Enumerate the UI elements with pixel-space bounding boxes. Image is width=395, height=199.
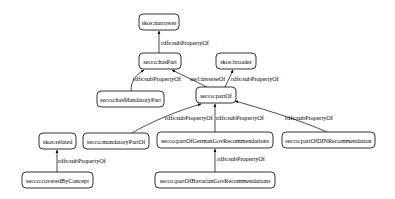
edge-label: rdfs:subPropertyOf — [133, 75, 182, 82]
node-secco-hasPart: secco:hasPart — [139, 53, 181, 69]
node-secco-partOf: secco:partOf — [196, 87, 236, 103]
node-secco-hasMandatoryPart: secco:hasMandatoryPart — [97, 91, 164, 107]
edge-label: owl:inverseOf — [190, 75, 226, 82]
node-label: secco:partOf — [200, 92, 233, 99]
node-secco-partOfDINRecommendation: secco:partOfDINRecommendation — [282, 132, 375, 148]
node-label: secco:partOfDINRecommendation — [285, 137, 371, 144]
node-label: secco:hasMandatoryPart — [100, 96, 161, 103]
node-secco-mandatoryPartOf: secco:mandatoryPartOf — [83, 133, 149, 149]
edge-label: rdfs:subPropertyOf — [217, 155, 266, 162]
node-skos-related: skos:related — [39, 133, 76, 149]
node-label: skos:narrower — [141, 19, 176, 26]
node-label: secco:partOfBavarianGovRecommendations — [160, 177, 271, 184]
node-label: skos:broader — [220, 58, 252, 65]
node-secco-coveredByConcept: secco:coveredByConcept — [22, 172, 93, 188]
node-label: secco:partOfGermanGovRecommendations — [161, 137, 270, 144]
edge-label: rdfs:subPropertyOf — [165, 114, 214, 121]
node-skos-narrower: skos:narrower — [139, 14, 179, 30]
property-graph: rdfs:subPropertyOf rdfs:subPropertyOf ow… — [0, 0, 395, 199]
node-secco-partOfGermanGovRecommendations: secco:partOfGermanGovRecommendations — [157, 132, 273, 148]
node-skos-broader: skos:broader — [216, 53, 256, 69]
edge-label: rdfs:subPropertyOf — [285, 114, 334, 121]
node-label: secco:hasPart — [143, 58, 177, 65]
edge-label: rdfs:subPropertyOf — [161, 39, 210, 46]
node-label: secco:coveredByConcept — [26, 177, 89, 184]
node-label: skos:related — [43, 138, 73, 145]
edge-label: rdfs:subPropertyOf — [231, 75, 280, 82]
edge-label: rdfs:subPropertyOf — [58, 157, 107, 164]
edge-label: rdfs:subPropertyOf — [216, 114, 265, 121]
node-label: secco:mandatoryPartOf — [87, 138, 146, 145]
node-secco-partOfBavarianGovRecommendations: secco:partOfBavarianGovRecommendations — [155, 172, 275, 188]
